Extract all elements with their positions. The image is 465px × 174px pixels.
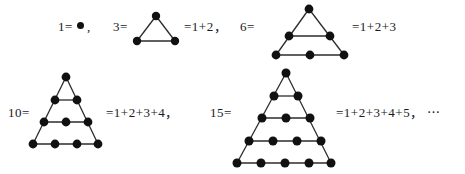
label-one-equals: 1= [58, 20, 73, 33]
label-one-comma: , [87, 20, 91, 33]
label-six-equals: 6= [240, 20, 255, 33]
triangle-figure-6 [268, 2, 352, 62]
label-three-sum: =1+2， [184, 20, 227, 33]
triangular-numbers-figure: 1= , 3= =1+2， 6= [0, 0, 465, 174]
label-six-sum: =1+2+3 [352, 20, 397, 33]
triangle-figure-10 [28, 68, 106, 152]
label-ten-equals: 10= [8, 106, 30, 119]
dot-figure-1 [77, 22, 84, 29]
label-three-equals: 3= [113, 20, 128, 33]
triangle-figure-3 [128, 8, 184, 50]
label-ten-sum: =1+2+3+4， [106, 106, 179, 119]
label-fifteen-equals: 15= [210, 106, 232, 119]
label-fifteen-sum: =1+2+3+4+5， ⋯ [336, 106, 441, 119]
triangle-figure-15 [232, 64, 336, 170]
